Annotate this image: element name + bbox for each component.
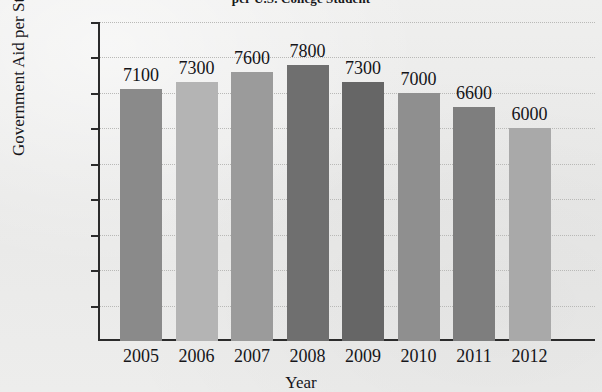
bar[interactable] bbox=[398, 93, 440, 341]
y-axis-title: Government Aid per Student bbox=[9, 0, 29, 213]
y-axis-tick bbox=[91, 93, 99, 95]
y-axis-tick bbox=[91, 270, 99, 272]
plot-area: 71007300760078007300700066006000 bbox=[98, 22, 595, 341]
bar[interactable] bbox=[453, 107, 495, 341]
y-axis-tick bbox=[91, 164, 99, 166]
bar[interactable] bbox=[176, 82, 218, 341]
bar[interactable] bbox=[231, 72, 273, 341]
bar[interactable] bbox=[342, 82, 384, 341]
gridline bbox=[98, 22, 595, 23]
bar[interactable] bbox=[120, 89, 162, 341]
y-axis-tick bbox=[91, 199, 99, 201]
bar[interactable] bbox=[509, 128, 551, 341]
y-axis-tick bbox=[91, 128, 99, 130]
bar-value-label: 7300 bbox=[165, 59, 229, 77]
bar-chart: per U.S. College Student Government Aid … bbox=[0, 0, 602, 392]
x-axis-title: Year bbox=[0, 373, 602, 392]
bar-value-label: 7100 bbox=[109, 66, 173, 84]
x-axis-tick-label: 2012 bbox=[496, 347, 564, 365]
bar-value-label: 7600 bbox=[220, 49, 284, 67]
y-axis-tick bbox=[91, 235, 99, 237]
bar-value-label: 7000 bbox=[387, 70, 451, 88]
y-axis-line bbox=[98, 22, 100, 341]
bar-value-label: 7300 bbox=[331, 59, 395, 77]
y-axis-tick bbox=[91, 22, 99, 24]
chart-title: per U.S. College Student bbox=[0, 0, 602, 7]
y-axis-tick bbox=[91, 57, 99, 59]
y-axis-tick bbox=[91, 306, 99, 308]
bar-value-label: 7800 bbox=[276, 42, 340, 60]
bar-value-label: 6000 bbox=[498, 105, 562, 123]
bar-value-label: 6600 bbox=[442, 84, 506, 102]
bar[interactable] bbox=[287, 65, 329, 341]
